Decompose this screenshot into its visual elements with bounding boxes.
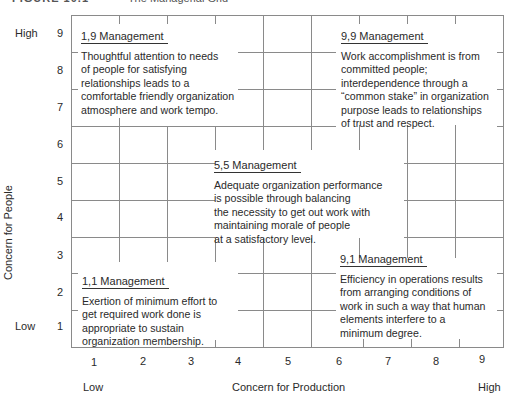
box-description: Thoughtful attention to needs of people … (81, 50, 241, 117)
x-axis-title: Concern for Production (232, 381, 345, 393)
box-description: Adequate organization performance is pos… (214, 179, 404, 246)
x-tick-9: 9 (475, 353, 489, 365)
management-style-9-9: 9,9 Management Work accomplishment is fr… (341, 26, 503, 130)
box-title: 1,1 Management (82, 275, 169, 289)
y-tick-2: 2 (54, 286, 66, 298)
box-title: 9,1 Management (340, 253, 427, 267)
box-description: Exertion of minimum effort to get requir… (82, 295, 242, 349)
y-axis-low-label: Low (15, 320, 35, 332)
x-axis-high-label: High (478, 381, 501, 393)
y-axis-high-label: High (15, 27, 38, 39)
management-style-1-9: 1,9 Management Thoughtful attention to n… (81, 26, 241, 117)
box-title: 1,9 Management (81, 30, 168, 44)
x-tick-3: 3 (184, 355, 198, 367)
box-title: 9,9 Management (341, 30, 428, 44)
box-description: Efficiency in operations results from ar… (340, 273, 504, 340)
y-tick-5: 5 (54, 175, 66, 187)
x-tick-8: 8 (429, 355, 443, 367)
x-tick-6: 6 (332, 355, 346, 367)
x-axis-low-label: Low (83, 381, 103, 393)
management-style-1-1: 1,1 Management Exertion of minimum effor… (82, 271, 242, 349)
y-tick-6: 6 (54, 138, 66, 150)
y-tick-7: 7 (54, 101, 66, 113)
x-tick-5: 5 (281, 355, 295, 367)
management-style-5-5: 5,5 Management Adequate organization per… (214, 155, 404, 246)
x-tick-7: 7 (381, 355, 395, 367)
box-title: 5,5 Management (214, 159, 301, 173)
x-tick-1: 1 (87, 356, 101, 368)
x-tick-4: 4 (231, 355, 245, 367)
x-tick-2: 2 (136, 355, 150, 367)
box-description: Work accomplishment is from committed pe… (341, 50, 503, 130)
y-tick-1: 1 (54, 320, 66, 332)
y-axis-title: Concern for People (2, 160, 14, 280)
y-tick-8: 8 (54, 64, 66, 76)
y-tick-9: 9 (54, 27, 66, 39)
management-style-9-1: 9,1 Management Efficiency in operations … (340, 249, 504, 340)
y-tick-3: 3 (54, 249, 66, 261)
y-tick-4: 4 (54, 211, 66, 223)
